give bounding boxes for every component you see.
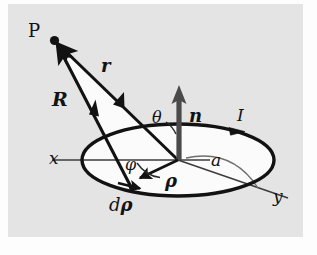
label-element-drho: dρ — [109, 196, 133, 214]
label-drho-d: d — [109, 194, 121, 215]
label-axis-x: x — [49, 150, 59, 167]
label-radius-a: a — [211, 152, 221, 169]
label-current-I: I — [237, 107, 244, 124]
label-point-P: P — [28, 22, 40, 40]
label-drho-rho: ρ — [121, 194, 133, 215]
label-normal-n: n — [189, 107, 202, 125]
label-vector-r: r — [101, 57, 110, 75]
figure-container: P r R θ n I x a φ ρ y dρ — [0, 0, 317, 255]
label-rho: ρ — [165, 172, 177, 190]
source-point-dot — [129, 185, 134, 190]
label-axis-y: y — [273, 188, 283, 205]
label-angle-theta: θ — [152, 110, 162, 126]
diagram-canvas — [0, 0, 317, 255]
label-vector-R: R — [52, 90, 68, 109]
point-P-dot — [50, 36, 59, 45]
label-angle-phi: φ — [125, 157, 136, 173]
